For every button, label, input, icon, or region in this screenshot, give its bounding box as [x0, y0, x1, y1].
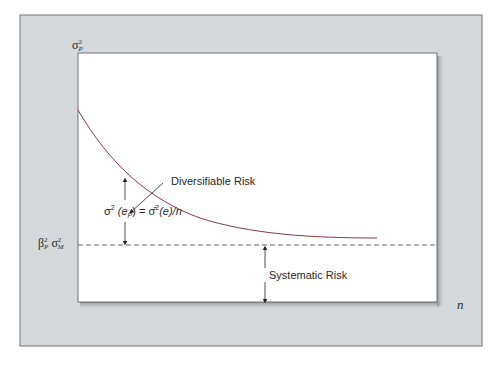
formula-rhs-n: n [176, 205, 182, 217]
formula-lhs: σ [104, 205, 111, 217]
formula-lhs-arg: (e [118, 205, 128, 217]
plot-shadow-right [437, 56, 445, 306]
y-axis-label: σ2P [72, 38, 83, 53]
x-axis-label: n [457, 297, 464, 313]
systematic-level-label: β2P σ2M [38, 236, 64, 251]
formula-lhs-sup: 2 [111, 204, 115, 211]
diversifiable-risk-formula: σ2 (eP) = σ̄2(e)/n [104, 205, 182, 217]
beta-sub: P [44, 244, 48, 251]
diversifiable-risk-label: Diversifiable Risk [171, 175, 255, 187]
plot-shadow-bottom [80, 302, 440, 310]
formula-rhs-arg: (e)/ [159, 205, 176, 217]
sigma-m-sub: M [58, 244, 64, 251]
y-axis-sub: P [78, 46, 82, 53]
systematic-risk-label: Systematic Risk [269, 269, 347, 281]
formula-equals: = [136, 205, 149, 217]
